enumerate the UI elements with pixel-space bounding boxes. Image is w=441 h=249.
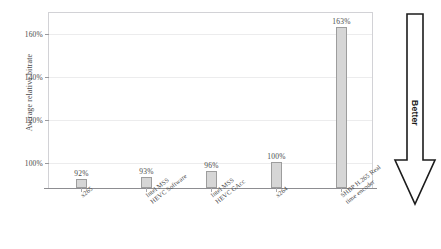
y-axis-tick-label: 100% — [25, 159, 43, 168]
bar-value-label: 100% — [267, 152, 285, 161]
bar: 163% — [336, 27, 347, 188]
y-axis-tick-label: 140% — [25, 73, 43, 82]
better-arrow-label: Better — [410, 78, 420, 148]
gridline — [49, 120, 372, 121]
chart-title — [60, 0, 360, 2]
bar-value-label: 96% — [204, 161, 218, 170]
better-arrow-annotation: Better — [393, 12, 437, 208]
y-axis-title: Average relative bitrate — [25, 23, 34, 163]
y-axis-tick-mark — [45, 77, 49, 78]
bar-value-label: 93% — [139, 167, 153, 176]
bar: 96% — [206, 171, 217, 188]
bar-chart-figure: Average relative bitrate 100%120%140%160… — [0, 0, 441, 249]
bar-value-label: 92% — [74, 169, 88, 178]
y-axis-tick-label: 160% — [25, 30, 43, 39]
y-axis-tick-mark — [45, 120, 49, 121]
bar-value-label: 163% — [332, 17, 350, 26]
y-axis-tick-mark — [45, 163, 49, 164]
gridline — [49, 34, 372, 35]
y-axis-tick-label: 120% — [25, 116, 43, 125]
y-axis-tick-mark — [45, 34, 49, 35]
gridline — [49, 77, 372, 78]
bar: 100% — [271, 162, 282, 188]
plot-area: 100%120%140%160%92%93%96%100%163% — [48, 12, 373, 188]
